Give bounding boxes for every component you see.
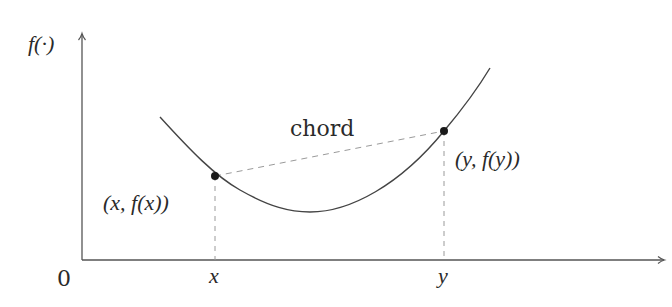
y-axis-label: f(·) [28, 33, 54, 55]
x-tick-label: x [209, 265, 219, 287]
point-y-marker [440, 127, 448, 135]
y-tick-label: y [438, 265, 448, 287]
point-y-label: (y, f(y)) [455, 148, 520, 170]
origin-label: 0 [57, 268, 71, 290]
point-x-marker [211, 172, 219, 180]
point-x-label: (x, f(x)) [103, 192, 169, 214]
convexity-diagram [0, 0, 672, 307]
chord-label: chord [290, 118, 354, 140]
